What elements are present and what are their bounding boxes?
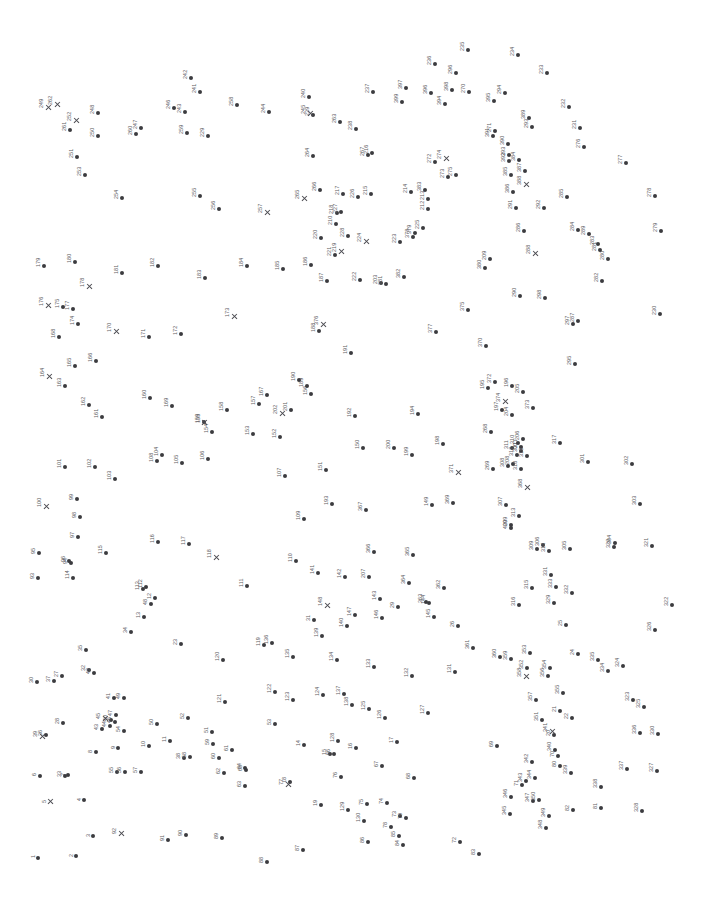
dot-marker-icon-83 bbox=[477, 852, 481, 856]
dot-label-280: 280 bbox=[600, 251, 605, 260]
dot-label-184: 184 bbox=[239, 258, 244, 267]
dot-marker-icon-95 bbox=[37, 551, 41, 555]
dot-marker-icon-251 bbox=[75, 155, 79, 159]
dot-label-148: 148 bbox=[318, 597, 323, 606]
dot-marker-icon-42 bbox=[92, 671, 96, 675]
dot-marker-icon-157 bbox=[257, 402, 261, 406]
dot-label-193: 193 bbox=[324, 496, 329, 505]
dot-label-273: 273 bbox=[440, 169, 445, 178]
dot-marker-icon-340 bbox=[553, 748, 557, 752]
dot-label-89: 89 bbox=[214, 833, 219, 839]
dot-label-30: 30 bbox=[29, 677, 34, 683]
dot-label-25: 25 bbox=[558, 620, 563, 626]
dot-label-313: 313 bbox=[511, 508, 516, 517]
dot-marker-icon-227 bbox=[339, 210, 343, 214]
dot-marker-icon-326 bbox=[653, 628, 657, 632]
dot-label-364: 364 bbox=[401, 575, 406, 584]
dot-label-335: 335 bbox=[590, 652, 595, 661]
dot-label-202: 202 bbox=[273, 405, 278, 414]
dot-label-46: 46 bbox=[107, 717, 112, 723]
dot-marker-icon-106 bbox=[206, 457, 210, 461]
dot-marker-icon-390 bbox=[506, 142, 510, 146]
dot-label-131: 131 bbox=[447, 664, 452, 673]
dot-marker-icon-268 bbox=[489, 430, 493, 434]
dot-marker-icon-324 bbox=[621, 664, 625, 668]
dot-marker-icon-298 bbox=[543, 296, 547, 300]
dot-label-270: 270 bbox=[461, 84, 466, 93]
dot-marker-icon-86 bbox=[366, 840, 370, 844]
dot-label-72: 72 bbox=[452, 837, 457, 843]
dot-label-279: 279 bbox=[653, 223, 658, 232]
dot-label-14: 14 bbox=[296, 740, 301, 746]
dot-marker-icon-141 bbox=[316, 571, 320, 575]
dot-marker-icon-158 bbox=[225, 408, 229, 412]
dot-label-186: 186 bbox=[303, 257, 308, 266]
dot-marker-icon-12 bbox=[153, 596, 157, 600]
dot-marker-icon-285 bbox=[565, 195, 569, 199]
dot-marker-icon-191 bbox=[349, 351, 353, 355]
dot-label-241: 241 bbox=[192, 84, 197, 93]
dot-marker-icon-31 bbox=[312, 618, 316, 622]
dot-label-164: 164 bbox=[40, 368, 45, 377]
dot-marker-icon-172 bbox=[179, 332, 183, 336]
dot-label-336: 336 bbox=[632, 725, 637, 734]
dot-label-232: 232 bbox=[561, 99, 566, 108]
dot-label-267: 267 bbox=[360, 147, 365, 156]
dot-label-219: 219 bbox=[332, 243, 337, 252]
dot-marker-icon-348 bbox=[544, 826, 548, 830]
dot-label-390: 390 bbox=[500, 136, 505, 145]
dot-label-17: 17 bbox=[389, 737, 394, 743]
dot-marker-icon-399 bbox=[400, 100, 404, 104]
dot-marker-icon-51 bbox=[210, 730, 214, 734]
dot-label-167: 167 bbox=[259, 387, 264, 396]
dot-marker-icon-105 bbox=[180, 461, 184, 465]
dot-marker-icon-70 bbox=[556, 754, 560, 758]
dot-label-139: 139 bbox=[314, 628, 319, 637]
dot-marker-icon-223 bbox=[398, 240, 402, 244]
dot-marker-icon-84 bbox=[401, 843, 405, 847]
dot-label-265: 265 bbox=[295, 190, 300, 199]
dot-label-60: 60 bbox=[211, 753, 216, 759]
dot-marker-icon-88 bbox=[265, 860, 269, 864]
dot-marker-icon-101 bbox=[63, 465, 67, 469]
dot-marker-icon-282 bbox=[600, 279, 604, 283]
cross-marker-icon-274 bbox=[443, 155, 450, 162]
dot-marker-icon-338 bbox=[599, 785, 603, 789]
dot-marker-icon-335 bbox=[596, 658, 600, 662]
dot-marker-icon-104 bbox=[160, 453, 164, 457]
dot-marker-icon-377 bbox=[434, 330, 438, 334]
dot-marker-icon-302 bbox=[630, 462, 634, 466]
dot-marker-icon-59 bbox=[211, 742, 215, 746]
dot-marker-icon-68 bbox=[412, 776, 416, 780]
dot-marker-icon-329 bbox=[552, 601, 556, 605]
dot-marker-icon-11 bbox=[168, 739, 172, 743]
dot-label-237: 237 bbox=[365, 84, 370, 93]
dot-marker-icon-221 bbox=[333, 253, 337, 257]
dot-label-120: 120 bbox=[215, 652, 220, 661]
dot-marker-icon-392 bbox=[507, 159, 511, 163]
connect-the-dots-canvas[interactable]: 1234567891011121314151617181920212223242… bbox=[0, 0, 721, 904]
dot-marker-icon-30 bbox=[35, 680, 39, 684]
dot-label-152: 152 bbox=[272, 429, 277, 438]
dot-label-161: 161 bbox=[94, 409, 99, 418]
dot-label-366: 366 bbox=[366, 544, 371, 553]
dot-marker-icon-355 bbox=[561, 691, 565, 695]
dot-marker-icon-127 bbox=[426, 711, 430, 715]
dot-label-217: 217 bbox=[335, 186, 340, 195]
dot-label-373: 373 bbox=[525, 400, 530, 409]
dot-marker-icon-226 bbox=[356, 195, 360, 199]
dot-label-1: 1 bbox=[31, 855, 36, 858]
dot-label-43: 43 bbox=[94, 724, 99, 730]
dot-label-173: 173 bbox=[225, 308, 230, 317]
dot-marker-icon-267 bbox=[366, 153, 370, 157]
dot-label-196: 196 bbox=[504, 378, 509, 387]
dot-label-93: 93 bbox=[30, 573, 35, 579]
dot-label-323: 323 bbox=[625, 692, 630, 701]
dot-marker-icon-8 bbox=[94, 750, 98, 754]
dot-marker-icon-263 bbox=[338, 120, 342, 124]
dot-label-169: 169 bbox=[164, 398, 169, 407]
dot-label-182: 182 bbox=[150, 258, 155, 267]
dot-marker-icon-179 bbox=[42, 264, 46, 268]
dot-marker-icon-181 bbox=[120, 271, 124, 275]
dot-label-109: 109 bbox=[296, 511, 301, 520]
